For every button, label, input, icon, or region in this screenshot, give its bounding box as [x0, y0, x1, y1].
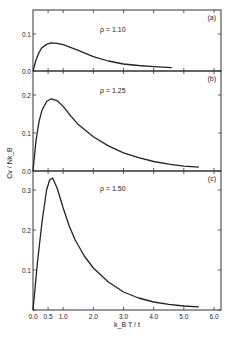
cv-curve — [33, 99, 199, 171]
x-tick-label: 0.5 — [44, 313, 53, 320]
x-tick-label: 4.0 — [149, 313, 158, 320]
x-tick-label: 1.0 — [59, 313, 68, 320]
specific-heat-figure: 0.00.1(a)ρ = 1.100.00.10.2(b)ρ = 1.250.1… — [0, 0, 230, 338]
y-tick-label: 0.0 — [22, 168, 31, 175]
x-tick-label: 0.0 — [28, 313, 37, 320]
panel-c: 0.10.20.3(c)ρ = 1.500.00.51.02.03.04.05.… — [22, 171, 221, 320]
y-tick-label: 0.2 — [22, 227, 31, 234]
y-tick-label: 0.2 — [22, 92, 31, 99]
cv-curve — [33, 178, 199, 310]
x-tick-label: 6.0 — [209, 313, 218, 320]
y-tick-label: 0.1 — [22, 130, 31, 137]
x-tick-label: 5.0 — [179, 313, 188, 320]
x-tick-label: 2.0 — [89, 313, 98, 320]
panel-frame — [33, 10, 221, 71]
y-tick-label: 0.0 — [22, 68, 31, 75]
panel-label: (c) — [208, 175, 216, 183]
y-axis-label: Cv / Nk_B — [6, 147, 14, 179]
panel-frame — [33, 171, 221, 310]
density-annotation: ρ = 1.50 — [100, 185, 126, 193]
y-tick-label: 0.1 — [22, 267, 31, 274]
panel-a: 0.00.1(a)ρ = 1.10 — [22, 10, 221, 75]
panel-label: (b) — [207, 75, 216, 83]
x-tick-label: 3.0 — [119, 313, 128, 320]
cv-curve — [33, 43, 172, 71]
density-annotation: ρ = 1.10 — [100, 26, 126, 34]
panel-frame — [33, 71, 221, 171]
x-axis-label: k_B T / t — [114, 321, 140, 329]
panel-b: 0.00.10.2(b)ρ = 1.25 — [22, 71, 221, 175]
panel-label: (a) — [207, 14, 216, 22]
y-tick-label: 0.3 — [22, 187, 31, 194]
y-tick-label: 0.1 — [22, 31, 31, 38]
density-annotation: ρ = 1.25 — [100, 87, 126, 95]
